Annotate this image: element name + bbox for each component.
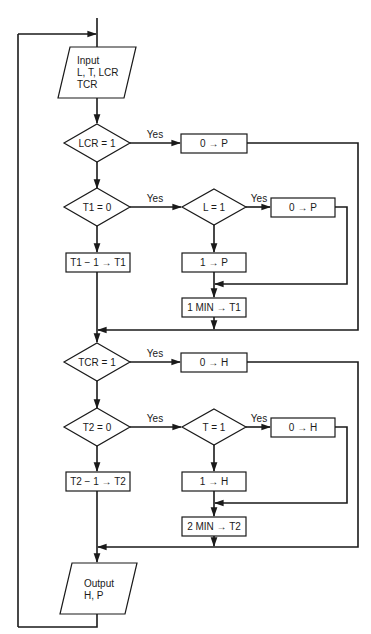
process-label: 1 → P <box>200 257 228 268</box>
decision-lcr-label: LCR = 1 <box>79 138 116 149</box>
process-label: T1 − 1 → T1 <box>70 257 126 268</box>
decision-t1: T1 = 0 <box>64 188 130 226</box>
process-label: 1 → H <box>200 476 228 487</box>
yes-label: Yes <box>147 193 163 204</box>
process-label: 1 MIN → T1 <box>187 302 241 313</box>
arrow-t-yes-merge <box>215 427 347 503</box>
decision-t2: T2 = 0 <box>64 408 130 446</box>
yes-label: Yes <box>147 129 163 140</box>
process-t1-set: 1 MIN → T1 <box>182 298 246 317</box>
decision-tcr-label: TCR = 1 <box>78 357 116 368</box>
decision-l-label: L = 1 <box>203 202 226 213</box>
process-label: 2 MIN → T2 <box>187 521 241 532</box>
process-label: 0 → P <box>200 138 228 149</box>
yes-label: Yes <box>251 413 267 424</box>
decision-l: L = 1 <box>182 189 246 225</box>
output-node: Output H, P <box>60 563 137 614</box>
process-label: T2 − 1 → T2 <box>70 476 126 487</box>
loop-bottom-line <box>18 614 97 627</box>
process-t2-set: 2 MIN → T2 <box>182 517 246 536</box>
yes-labels: Yes Yes Yes Yes Yes Yes <box>147 129 267 424</box>
process-t1-decrement: T1 − 1 → T1 <box>66 253 130 272</box>
process-label: 0 → P <box>289 202 317 213</box>
process-t2-decrement: T2 − 1 → T2 <box>66 472 130 491</box>
input-node: Input L, T, LCR TCR <box>58 47 136 98</box>
process-label: 0 → H <box>289 422 317 433</box>
decision-t: T = 1 <box>182 409 246 445</box>
decision-t1-label: T1 = 0 <box>83 202 112 213</box>
input-title: Input <box>77 55 99 66</box>
process-lcr-yes: 0 → P <box>181 134 247 153</box>
process-label: 0 → H <box>200 357 228 368</box>
process-t-no: 1 → H <box>182 472 246 491</box>
yes-label: Yes <box>251 193 267 204</box>
process-tcr-yes: 0 → H <box>181 353 247 372</box>
output-vars: H, P <box>84 590 104 601</box>
decision-lcr: LCR = 1 <box>64 124 130 162</box>
decision-t2-label: T2 = 0 <box>83 422 112 433</box>
input-vars-2: TCR <box>77 79 98 90</box>
yes-label: Yes <box>147 348 163 359</box>
process-l-no: 1 → P <box>182 253 246 272</box>
process-l-yes: 0 → P <box>271 198 335 217</box>
decision-t-label: T = 1 <box>203 422 226 433</box>
decision-tcr: TCR = 1 <box>64 343 130 381</box>
flowchart: Yes Yes Yes Yes Yes Yes Input L, T, LCR … <box>0 0 371 634</box>
output-title: Output <box>84 578 114 589</box>
input-vars-1: L, T, LCR <box>77 67 119 78</box>
yes-label: Yes <box>147 413 163 424</box>
process-t-yes: 0 → H <box>271 418 335 437</box>
